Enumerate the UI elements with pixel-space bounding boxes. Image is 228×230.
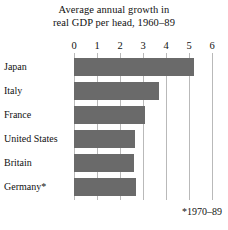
category-label: Italy (4, 83, 70, 99)
bars-layer: JapanItalyFranceUnited StatesBritainGerm… (0, 55, 228, 205)
bar-row: Italy (0, 79, 228, 103)
chart-title: Average annual growth in real GDP per he… (0, 3, 228, 29)
footnote: *1970–89 (182, 206, 222, 218)
bar (74, 82, 159, 100)
category-label: Germany* (4, 179, 70, 195)
x-tick-label: 4 (158, 40, 174, 52)
x-tick-label: 5 (181, 40, 197, 52)
bar (74, 130, 135, 148)
x-tick-label: 0 (66, 40, 82, 52)
plot-area: 0123456 JapanItalyFranceUnited StatesBri… (0, 40, 228, 205)
x-tick-label: 6 (204, 40, 220, 52)
x-tick-label: 3 (135, 40, 151, 52)
bar (74, 178, 136, 196)
bar-row: Britain (0, 151, 228, 175)
chart-title-line-1: Average annual growth in (0, 3, 228, 16)
x-axis: 0123456 (0, 40, 228, 56)
chart-title-line-2: real GDP per head, 1960–89 (0, 16, 228, 29)
bar-chart-figure: Average annual growth in real GDP per he… (0, 0, 228, 230)
bar-row: Germany* (0, 175, 228, 199)
bar-row: France (0, 103, 228, 127)
bar (74, 106, 145, 124)
bar (74, 58, 194, 76)
bar (74, 154, 134, 172)
category-label: United States (4, 131, 70, 147)
bar-row: Japan (0, 55, 228, 79)
category-label: France (4, 107, 70, 123)
category-label: Japan (4, 59, 70, 75)
x-tick-label: 2 (112, 40, 128, 52)
x-tick-label: 1 (89, 40, 105, 52)
category-label: Britain (4, 155, 70, 171)
bar-row: United States (0, 127, 228, 151)
